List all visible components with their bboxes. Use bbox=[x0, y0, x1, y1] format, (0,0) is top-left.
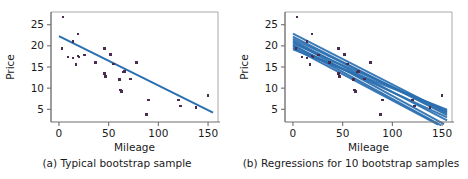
data-point bbox=[77, 33, 80, 36]
x-tick-label-100: 100 bbox=[382, 127, 402, 139]
data-point bbox=[413, 105, 416, 108]
data-point bbox=[177, 99, 180, 102]
y-tick-label-10: 10 bbox=[265, 82, 278, 94]
data-point bbox=[317, 54, 320, 57]
data-point bbox=[337, 47, 340, 50]
data-point bbox=[379, 113, 382, 116]
data-point bbox=[75, 63, 78, 66]
plot-frame bbox=[51, 12, 218, 122]
regression-fit-line bbox=[59, 36, 213, 113]
x-axis-ticks: 050100150 bbox=[290, 122, 452, 139]
y-axis-title: Price bbox=[238, 54, 250, 80]
y-tick-label-20: 20 bbox=[31, 39, 44, 51]
regression-lines-group bbox=[293, 34, 447, 126]
bootstrap-regression-figure: 050100150510152025MileagePrice(a) Typica… bbox=[0, 0, 468, 179]
regression-lines-group bbox=[59, 36, 213, 113]
data-point bbox=[343, 53, 346, 56]
data-point bbox=[354, 90, 357, 93]
y-tick-label-15: 15 bbox=[31, 61, 44, 73]
panel-a-typical-bootstrap-sample: 050100150510152025MileagePrice(a) Typica… bbox=[0, 0, 234, 179]
data-point bbox=[179, 105, 182, 108]
panel-b-plot: 050100150510152025MileagePrice(b) Regres… bbox=[234, 0, 468, 179]
data-point bbox=[357, 70, 360, 73]
data-point bbox=[363, 78, 366, 81]
data-point bbox=[381, 99, 384, 102]
data-point bbox=[207, 94, 210, 97]
data-point bbox=[309, 63, 312, 66]
data-point bbox=[195, 106, 198, 109]
data-point bbox=[104, 75, 107, 78]
data-point bbox=[295, 47, 298, 50]
data-point bbox=[118, 78, 121, 81]
bootstrap-regression-line-9 bbox=[293, 48, 438, 125]
y-tick-label-25: 25 bbox=[265, 18, 278, 30]
data-point bbox=[123, 70, 126, 73]
plot-frame-box bbox=[51, 12, 218, 122]
data-point bbox=[72, 40, 75, 43]
y-axis-title: Price bbox=[4, 54, 16, 80]
y-tick-label-25: 25 bbox=[31, 18, 44, 30]
data-point bbox=[61, 47, 64, 50]
x-tick-label-50: 50 bbox=[102, 127, 115, 139]
data-point bbox=[306, 40, 309, 43]
data-point bbox=[338, 75, 341, 78]
y-tick-label-10: 10 bbox=[31, 82, 44, 94]
data-point bbox=[337, 72, 340, 75]
y-axis-ticks: 510152025 bbox=[265, 18, 285, 115]
data-point bbox=[352, 78, 355, 81]
data-point bbox=[94, 61, 97, 64]
data-point bbox=[346, 63, 349, 66]
x-axis-ticks: 050100150 bbox=[56, 122, 218, 139]
y-axis-ticks: 510152025 bbox=[31, 18, 51, 115]
x-tick-label-150: 150 bbox=[198, 127, 218, 139]
y-tick-label-5: 5 bbox=[271, 103, 278, 115]
x-axis-title: Mileage bbox=[114, 141, 155, 153]
bootstrap-regression-line-8 bbox=[293, 46, 447, 117]
panel-b-regressions-10-samples: 050100150510152025MileagePrice(b) Regres… bbox=[234, 0, 468, 179]
data-point bbox=[129, 78, 132, 81]
panel-a-plot: 050100150510152025MileagePrice(a) Typica… bbox=[0, 0, 234, 179]
data-point bbox=[441, 94, 444, 97]
data-point bbox=[411, 99, 414, 102]
data-point bbox=[78, 56, 81, 59]
panel-caption: (b) Regressions for 10 bootstrap samples bbox=[243, 157, 460, 169]
axes-group bbox=[51, 12, 220, 122]
y-tick-label-5: 5 bbox=[37, 103, 44, 115]
data-point bbox=[103, 47, 106, 50]
data-point bbox=[112, 63, 115, 66]
data-point bbox=[306, 57, 309, 60]
x-tick-label-150: 150 bbox=[432, 127, 452, 139]
data-point bbox=[72, 57, 75, 60]
data-point bbox=[429, 106, 432, 109]
data-point bbox=[103, 72, 106, 75]
data-point bbox=[120, 90, 123, 93]
data-point bbox=[109, 53, 112, 56]
data-point bbox=[311, 33, 314, 36]
data-point bbox=[301, 56, 304, 59]
y-tick-label-15: 15 bbox=[265, 61, 278, 73]
panel-caption: (a) Typical bootstrap sample bbox=[42, 157, 191, 169]
x-tick-label-0: 0 bbox=[290, 127, 297, 139]
data-point bbox=[145, 113, 148, 116]
x-tick-label-50: 50 bbox=[336, 127, 349, 139]
y-tick-label-20: 20 bbox=[265, 39, 278, 51]
data-point bbox=[135, 61, 138, 64]
x-axis-title: Mileage bbox=[348, 141, 389, 153]
data-point bbox=[312, 56, 315, 59]
data-point bbox=[296, 16, 299, 19]
data-point bbox=[328, 61, 331, 64]
data-point bbox=[147, 99, 150, 102]
data-point bbox=[369, 61, 372, 64]
data-point bbox=[67, 56, 70, 59]
data-point bbox=[62, 16, 65, 19]
x-tick-label-100: 100 bbox=[148, 127, 168, 139]
data-point bbox=[83, 54, 86, 57]
bootstrap-regression-line-10 bbox=[293, 49, 447, 109]
x-tick-label-0: 0 bbox=[56, 127, 63, 139]
